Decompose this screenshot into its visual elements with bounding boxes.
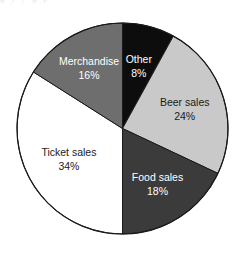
slice-label-name: Beer sales bbox=[160, 96, 210, 108]
slice-label-value: 16% bbox=[78, 69, 99, 81]
slice-label-name: Food sales bbox=[132, 171, 183, 183]
slice-label-value: 8% bbox=[131, 67, 146, 79]
slice-label-value: 24% bbox=[174, 110, 195, 122]
pie-chart-figure: g y y g p Other8%Beer sales24%Food sales… bbox=[0, 0, 245, 255]
slice-label-name: Merchandise bbox=[59, 55, 119, 67]
slice-label-value: 18% bbox=[147, 185, 168, 197]
slice-label-value: 34% bbox=[58, 160, 79, 172]
pie-slices-group bbox=[17, 23, 228, 234]
slice-label-name: Ticket sales bbox=[41, 146, 96, 158]
slice-label-name: Other bbox=[126, 53, 153, 65]
pie-chart-svg: Other8%Beer sales24%Food sales18%Ticket … bbox=[0, 0, 245, 255]
